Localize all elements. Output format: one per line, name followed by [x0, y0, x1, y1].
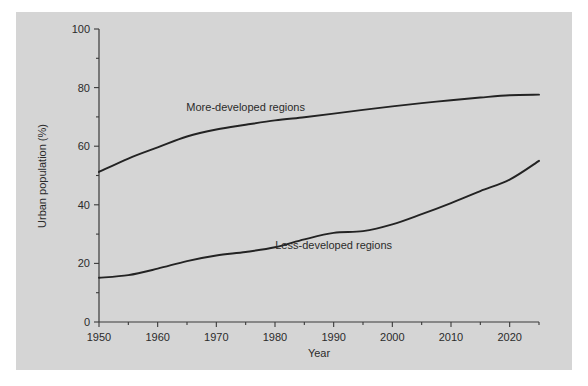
- x-tick-label: 1980: [263, 331, 287, 343]
- y-tick-label: 0: [84, 316, 90, 328]
- x-tick-label: 1960: [145, 331, 169, 343]
- y-tick-label: 20: [78, 257, 90, 269]
- line-chart: 020406080100 195019601970198019902000201…: [16, 12, 572, 370]
- chart-page: 020406080100 195019601970198019902000201…: [0, 0, 588, 386]
- y-tick-label: 40: [78, 199, 90, 211]
- y-tick-label-group: 020406080100: [72, 23, 90, 328]
- x-tick-label: 2010: [439, 331, 463, 343]
- x-axis-title: Year: [308, 347, 331, 359]
- series-label-group: More-developed regionsLess-developed reg…: [186, 101, 392, 251]
- y-tick-label: 100: [72, 23, 90, 35]
- series-line: [99, 161, 539, 278]
- x-tick-label: 1950: [87, 331, 111, 343]
- x-tick-label: 2020: [497, 331, 521, 343]
- series-label: Less-developed regions: [275, 239, 392, 251]
- y-axis-title: Urban population (%): [36, 124, 48, 228]
- x-tick-label: 1970: [204, 331, 228, 343]
- y-tick-label: 60: [78, 140, 90, 152]
- x-tick-group: [99, 322, 539, 327]
- chart-panel: 020406080100 195019601970198019902000201…: [16, 12, 572, 370]
- x-tick-label: 2000: [380, 331, 404, 343]
- y-tick-label: 80: [78, 82, 90, 94]
- series-label: More-developed regions: [186, 101, 305, 113]
- series-line: [99, 95, 539, 172]
- x-tick-label: 1990: [321, 331, 345, 343]
- x-tick-label-group: 19501960197019801990200020102020: [87, 331, 522, 343]
